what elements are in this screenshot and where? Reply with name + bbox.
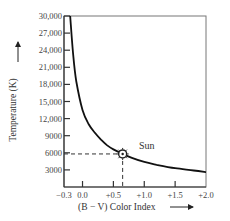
y-tick-label: 3000 bbox=[45, 165, 62, 175]
y-tick-label: 24,000 bbox=[39, 45, 62, 55]
y-tick-label: 27,000 bbox=[39, 28, 62, 38]
y-ticks: 30006000900012,00015,00018,00021,00024,0… bbox=[39, 11, 70, 175]
x-ticks: −0.30.0+0.5+1.0+1.5+2.0 bbox=[56, 181, 213, 200]
y-axis-label: Temperature (K) bbox=[8, 78, 19, 141]
sun-marker-icon bbox=[117, 148, 129, 160]
x-tick-label: +2.0 bbox=[198, 190, 213, 200]
sun-label: Sun bbox=[139, 140, 155, 151]
y-tick-label: 15,000 bbox=[39, 97, 62, 107]
y-tick-label: 21,000 bbox=[39, 62, 62, 72]
temperature-color-index-chart: 30006000900012,00015,00018,00021,00024,0… bbox=[0, 0, 230, 221]
y-tick-label: 18,000 bbox=[39, 79, 62, 89]
x-tick-label: +0.5 bbox=[106, 190, 121, 200]
x-axis-label: (B − V) Color Index bbox=[78, 202, 156, 213]
x-tick-label: +1.5 bbox=[167, 190, 182, 200]
y-axis-title: Temperature (K) bbox=[8, 78, 19, 141]
y-tick-label: 30,000 bbox=[39, 11, 62, 21]
x-tick-label: +1.0 bbox=[137, 190, 152, 200]
y-tick-label: 9000 bbox=[45, 131, 62, 141]
x-tick-label: 0.0 bbox=[77, 190, 88, 200]
plot-frame bbox=[64, 16, 206, 187]
y-tick-label: 6000 bbox=[45, 148, 62, 158]
y-tick-label: 12,000 bbox=[39, 114, 62, 124]
x-tick-label: −0.3 bbox=[56, 190, 71, 200]
